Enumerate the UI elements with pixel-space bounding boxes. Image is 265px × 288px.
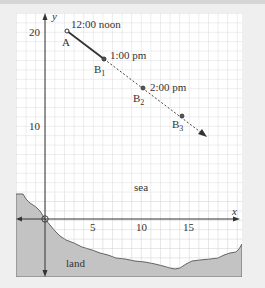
ship-course-diagram: y x 20 10 5 10 15 A 12:00 noon B1 1:00 p… — [0, 0, 265, 288]
time-B2: 2:00 pm — [150, 81, 187, 93]
x-axis-label: x — [231, 205, 237, 217]
point-B3 — [180, 114, 184, 118]
point-B2 — [141, 86, 145, 90]
x-tick-10: 10 — [136, 221, 148, 233]
point-A — [65, 29, 69, 33]
y-tick-20: 20 — [29, 26, 41, 38]
y-axis-label: y — [51, 10, 57, 22]
x-tick-5: 5 — [90, 221, 96, 233]
land-label: land — [66, 257, 85, 269]
x-tick-15: 15 — [183, 221, 195, 233]
y-tick-10: 10 — [29, 120, 41, 132]
time-A: 12:00 noon — [71, 18, 121, 30]
time-B1: 1:00 pm — [110, 49, 147, 61]
label-A: A — [62, 36, 70, 48]
sea-label: sea — [134, 181, 148, 193]
point-B1 — [102, 57, 106, 61]
